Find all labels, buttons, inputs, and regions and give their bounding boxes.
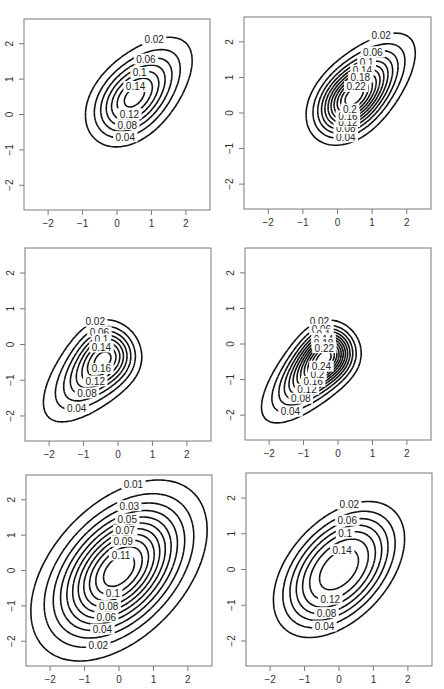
y-tick-label: 2 bbox=[226, 495, 237, 501]
x-tick-label: 2 bbox=[405, 674, 411, 685]
y-tick-label: −1 bbox=[226, 599, 237, 611]
x-axis: −2−1012 bbox=[264, 666, 411, 685]
contour-label: 0.02 bbox=[340, 499, 360, 510]
y-tick-label: 1 bbox=[226, 531, 237, 537]
contour-label: 0.08 bbox=[317, 608, 337, 619]
contour-label: 0.14 bbox=[332, 545, 352, 556]
contour-label: 0.1 bbox=[338, 528, 352, 539]
x-tick-label: −2 bbox=[264, 674, 276, 685]
x-tick-label: 1 bbox=[371, 674, 377, 685]
contour-label: 0.12 bbox=[321, 594, 341, 605]
x-tick-label: 0 bbox=[336, 674, 342, 685]
contour-label: 0.04 bbox=[315, 621, 335, 632]
y-tick-label: 0 bbox=[226, 566, 237, 572]
contour-label: 0.06 bbox=[338, 515, 358, 526]
y-axis: −2−1012 bbox=[226, 495, 246, 647]
x-tick-label: −1 bbox=[299, 674, 311, 685]
y-tick-label: −2 bbox=[226, 635, 237, 647]
